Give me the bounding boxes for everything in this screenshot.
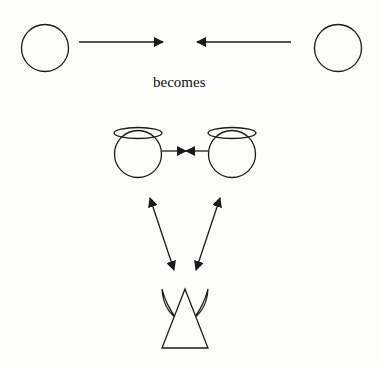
left-horn-icon xyxy=(162,289,176,318)
halo-icon xyxy=(114,128,162,139)
top-right-node xyxy=(315,25,362,72)
devil-body-icon xyxy=(162,289,208,348)
left-angel-node xyxy=(114,128,162,178)
circle-icon xyxy=(22,25,69,72)
double-arrow-right xyxy=(196,198,220,270)
halo-icon xyxy=(208,128,256,139)
right-angel-node xyxy=(208,128,256,178)
right-horn-icon xyxy=(194,289,208,318)
devil-node xyxy=(162,289,208,348)
diagram-canvas xyxy=(0,0,380,366)
top-left-node xyxy=(22,25,69,72)
circle-icon xyxy=(315,25,362,72)
caption-becomes: becomes xyxy=(153,74,205,91)
double-arrow-left xyxy=(150,198,174,270)
